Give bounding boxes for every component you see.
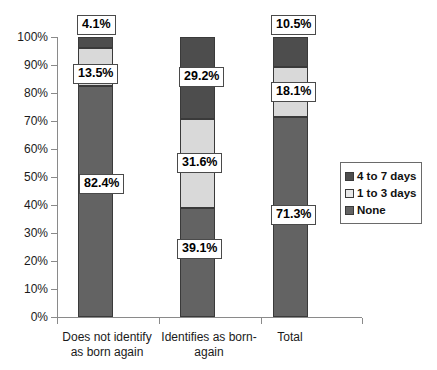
y-axis-tick-label: 40%: [0, 199, 48, 211]
category-label-line: again: [155, 345, 263, 360]
bar-segment[interactable]: [273, 37, 308, 66]
y-axis-tick-label: 60%: [0, 143, 48, 155]
data-value-label: 31.6%: [177, 153, 222, 173]
data-value-label: 71.3%: [271, 205, 316, 225]
legend-item-label: None: [357, 204, 386, 216]
x-axis-category-label: Identifies as born-again: [155, 330, 263, 360]
data-value-label: 29.2%: [179, 67, 224, 87]
bar-group[interactable]: [273, 37, 308, 317]
data-value-label: 13.5%: [73, 64, 118, 84]
data-value-label: 39.1%: [177, 239, 222, 259]
legend-swatch-icon: [345, 172, 354, 181]
category-label-line: Does not identify: [52, 330, 162, 345]
legend-item[interactable]: None: [345, 202, 416, 218]
y-axis-tick-label: 90%: [0, 59, 48, 71]
legend-item-label: 1 to 3 days: [357, 187, 416, 199]
category-label-line: as born again: [52, 345, 162, 360]
category-label-line: Total: [250, 330, 330, 345]
data-value-label: 18.1%: [271, 82, 316, 102]
y-axis-tick-label: 80%: [0, 87, 48, 99]
y-axis-tick-label: 10%: [0, 283, 48, 295]
y-axis-tick-labels: 0%10%20%30%40%50%60%70%80%90%100%: [0, 30, 48, 325]
legend-swatch-icon: [345, 189, 354, 198]
bar-segment[interactable]: [180, 208, 215, 317]
legend-swatch-icon: [345, 206, 354, 215]
x-axis-tick-mark: [57, 318, 58, 324]
legend-item[interactable]: 1 to 3 days: [345, 185, 416, 201]
x-axis-tick-mark: [159, 318, 160, 324]
stacked-bar-chart: 0%10%20%30%40%50%60%70%80%90%100% 4.1%13…: [0, 0, 437, 370]
y-axis-tick-label: 70%: [0, 115, 48, 127]
legend-item[interactable]: 4 to 7 days: [345, 168, 416, 184]
x-axis-tick-mark: [362, 318, 363, 324]
x-axis-tick-mark: [261, 318, 262, 324]
y-axis-tick-label: 50%: [0, 171, 48, 183]
y-axis-tick-label: 30%: [0, 227, 48, 239]
x-axis-category-label: Does not identifyas born again: [52, 330, 162, 360]
y-axis-tick-label: 0%: [0, 311, 48, 323]
x-axis-category-label: Total: [250, 330, 330, 345]
y-axis-tick-label: 100%: [0, 31, 48, 43]
data-value-label: 82.4%: [79, 174, 124, 194]
category-label-line: Identifies as born-: [155, 330, 263, 345]
x-axis-line: [57, 317, 362, 318]
bar-segment[interactable]: [78, 37, 113, 48]
data-value-label: 4.1%: [77, 15, 116, 35]
chart-legend: 4 to 7 days1 to 3 daysNone: [340, 162, 422, 224]
plot-area: 4.1%13.5%82.4%29.2%31.6%39.1%10.5%18.1%7…: [57, 37, 362, 317]
bar-segment[interactable]: [78, 86, 113, 317]
data-value-label: 10.5%: [271, 15, 316, 35]
legend-item-label: 4 to 7 days: [357, 170, 416, 182]
y-axis-tick-label: 20%: [0, 255, 48, 267]
